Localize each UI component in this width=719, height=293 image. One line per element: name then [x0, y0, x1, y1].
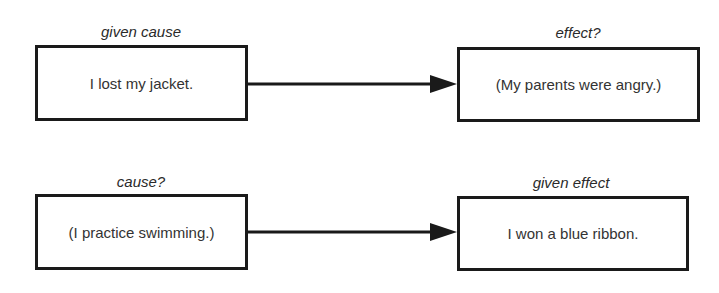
cause-box-row-2: (I practice swimming.) — [35, 194, 248, 270]
arrow-row-2 — [247, 223, 457, 241]
cause-text-row-1: I lost my jacket. — [90, 75, 193, 92]
cause-box-row-1: I lost my jacket. — [35, 45, 248, 121]
effect-box-row-1: (My parents were angry.) — [457, 47, 700, 122]
effect-box-row-2: I won a blue ribbon. — [457, 196, 689, 271]
given-effect-label: given effect — [533, 174, 610, 191]
effect-question-label: effect? — [555, 24, 600, 41]
arrow-row-1 — [247, 75, 457, 93]
effect-text-row-1: (My parents were angry.) — [496, 76, 662, 93]
cause-question-label: cause? — [117, 173, 165, 190]
given-cause-label: given cause — [101, 23, 181, 40]
cause-text-row-2: (I practice swimming.) — [69, 224, 215, 241]
effect-text-row-2: I won a blue ribbon. — [508, 225, 639, 242]
